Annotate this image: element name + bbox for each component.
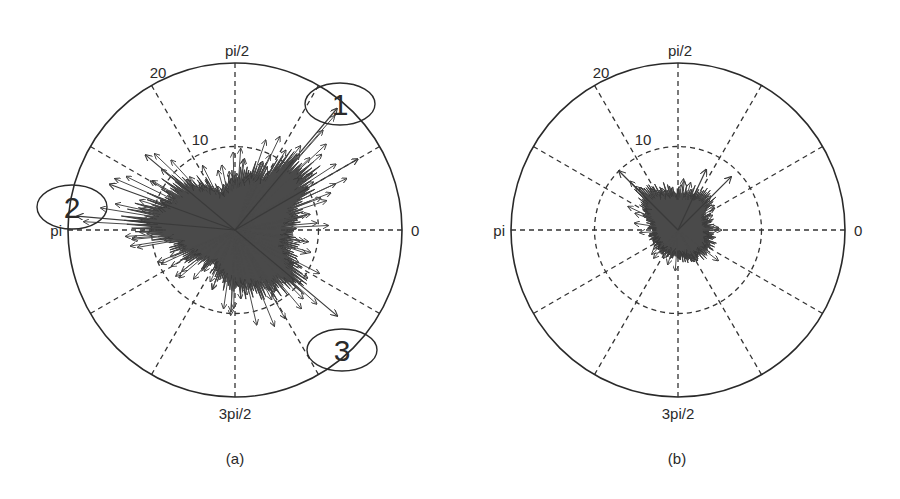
angle-label-0-a: 0 bbox=[411, 222, 419, 239]
caption-b: (b) bbox=[668, 450, 686, 467]
polar-plot-b: pi/2 pi 0 3pi/2 20 10 (b) bbox=[493, 42, 862, 467]
radial-label-20-a: 20 bbox=[150, 64, 167, 81]
figure-canvas: pi/2 pi 0 3pi/2 20 10 1 2 3 (a) pi/2 pi bbox=[0, 0, 900, 499]
angle-label-pi-over-2-b: pi/2 bbox=[668, 42, 692, 59]
annotation-label-2: 2 bbox=[64, 191, 81, 224]
angle-label-3pi-over-2-b: 3pi/2 bbox=[662, 405, 695, 422]
annotation-ellipse-2: 2 bbox=[37, 185, 107, 229]
radial-label-10-a: 10 bbox=[192, 131, 209, 148]
caption-a: (a) bbox=[226, 450, 244, 467]
radial-label-20-b: 20 bbox=[593, 64, 610, 81]
angle-label-0-b: 0 bbox=[854, 222, 862, 239]
annotation-label-3: 3 bbox=[334, 334, 351, 367]
vector-cloud-a bbox=[77, 109, 358, 327]
radial-label-10-b: 10 bbox=[635, 131, 652, 148]
vector-cloud-b bbox=[619, 170, 731, 271]
annotation-ellipse-1: 1 bbox=[305, 83, 375, 125]
polar-plot-a: pi/2 pi 0 3pi/2 20 10 1 2 3 (a) bbox=[37, 42, 419, 467]
annotation-label-1: 1 bbox=[332, 88, 349, 121]
angle-label-pi-b: pi bbox=[493, 222, 505, 239]
angle-label-3pi-over-2-a: 3pi/2 bbox=[219, 405, 252, 422]
angle-label-pi-over-2-a: pi/2 bbox=[225, 42, 249, 59]
annotation-ellipse-3: 3 bbox=[307, 329, 377, 371]
